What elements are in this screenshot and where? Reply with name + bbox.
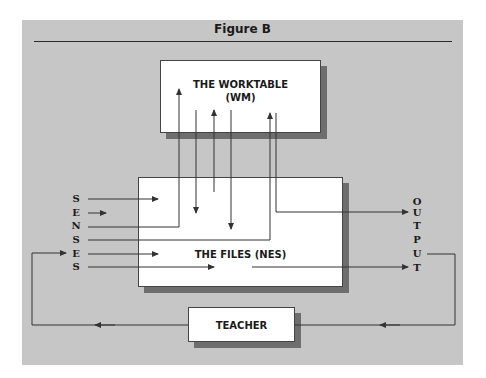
senses-letter: E [71,248,81,259]
output-letter: U [412,248,422,259]
line-teacher-to-senses [32,253,188,325]
output-letter: T [412,262,422,273]
arrow-n-to-worktable [88,89,179,227]
line-output-to-teacher [295,254,455,325]
output-letter: T [412,220,422,231]
connector-lines [0,0,486,378]
output-letter: U [412,207,422,218]
senses-letter: N [71,220,81,231]
arrow-wm-to-output-u [276,113,408,212]
output-letter: P [412,234,422,245]
senses-letter: S [71,234,81,245]
senses-letter: S [71,193,81,204]
senses-letter: E [71,207,81,218]
output-letter: O [412,196,422,207]
senses-letter: S [71,261,81,272]
